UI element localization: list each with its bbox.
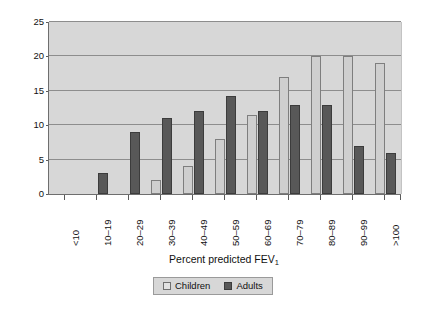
- y-axis-tick-label: 25: [20, 17, 44, 27]
- x-axis-tick-label: 80–89: [325, 194, 339, 246]
- bar-adults: [354, 146, 364, 194]
- legend-label-adults: Adults: [236, 281, 262, 291]
- x-axis-tick-label: <10: [69, 194, 83, 246]
- legend-item-children: Children: [163, 281, 210, 291]
- x-axis-tick-mark: [64, 195, 65, 200]
- x-axis: <1010–1920–2930–3940–4950–5960–6970–7980…: [48, 194, 401, 254]
- y-axis-tick-label: 10: [20, 120, 44, 130]
- y-axis-title: Percent of patients: [2, 0, 20, 40]
- x-axis-tick-mark: [128, 195, 129, 200]
- bars-group: [49, 22, 401, 194]
- x-axis-tick-mark: [384, 195, 385, 200]
- x-axis-tick-mark: [352, 195, 353, 200]
- x-axis-title-subscript: 1: [275, 258, 279, 267]
- legend-label-children: Children: [175, 281, 210, 291]
- x-axis-title: Percent predicted FEV1: [48, 253, 400, 265]
- bar-adults: [162, 118, 172, 194]
- x-axis-tick-label: 50–59: [229, 194, 243, 246]
- bar-chart-figure: Percent of patients 0510152025 <1010–192…: [0, 0, 426, 310]
- x-axis-tick-mark: [256, 195, 257, 200]
- bar-adults: [290, 105, 300, 194]
- y-axis-tick-label: 15: [20, 86, 44, 96]
- legend: Children Adults: [153, 277, 273, 295]
- y-axis-tick-labels: 0510152025: [20, 14, 44, 200]
- bar-children: [247, 115, 257, 194]
- x-axis-title-text: Percent predicted FEV: [169, 253, 275, 265]
- x-axis-tick-label: 70–79: [293, 194, 307, 246]
- plot-area: [48, 22, 401, 195]
- legend-swatch-children-icon: [163, 282, 171, 290]
- x-axis-tick-mark: [288, 195, 289, 200]
- x-axis-tick-label: 10–19: [101, 194, 115, 246]
- bar-children: [215, 139, 225, 194]
- x-axis-tick-mark: [320, 195, 321, 200]
- x-axis-tick-mark: [224, 195, 225, 200]
- bar-children: [279, 77, 289, 194]
- bar-children: [343, 56, 353, 194]
- y-axis-tick-label: 20: [20, 51, 44, 61]
- bar-adults: [226, 96, 236, 194]
- x-axis-tick-label: 40–49: [197, 194, 211, 246]
- bar-children: [151, 180, 161, 194]
- x-axis-tick-label: 20–29: [133, 194, 147, 246]
- bar-adults: [194, 111, 204, 194]
- bar-adults: [258, 111, 268, 194]
- x-axis-tick-mark: [96, 195, 97, 200]
- x-axis-tick-mark: [160, 195, 161, 200]
- x-axis-tick-label: >100: [389, 194, 403, 246]
- legend-swatch-adults-icon: [224, 282, 232, 290]
- bar-adults: [386, 153, 396, 194]
- x-axis-tick-mark: [400, 195, 401, 200]
- x-axis-line: [48, 194, 400, 195]
- bar-adults: [130, 132, 140, 194]
- bar-children: [311, 56, 321, 194]
- bar-children: [183, 166, 193, 194]
- bar-children: [375, 63, 385, 194]
- y-axis-tick-label: 0: [20, 189, 44, 199]
- x-axis-tick-mark: [192, 195, 193, 200]
- bar-adults: [322, 105, 332, 194]
- x-axis-tick-label: 90–99: [357, 194, 371, 246]
- bar-adults: [98, 173, 108, 194]
- x-axis-tick-label: 30–39: [165, 194, 179, 246]
- x-axis-tick-label: 60–69: [261, 194, 275, 246]
- y-axis-tick-label: 5: [20, 155, 44, 165]
- legend-item-adults: Adults: [224, 281, 262, 291]
